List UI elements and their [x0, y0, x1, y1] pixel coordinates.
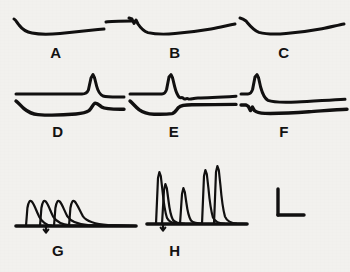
panel-c: [240, 12, 348, 42]
panel-label-b: B: [163, 44, 187, 61]
panel-label-f: F: [272, 123, 296, 140]
panel-b: [129, 12, 239, 42]
panel-f-traces: [241, 72, 349, 120]
panel-label-d: D: [46, 123, 70, 140]
panel-label-e: E: [162, 123, 186, 140]
trace-lower-slow-wave-d: [16, 101, 124, 115]
panel-g-traces: [16, 180, 138, 236]
panel-h-traces: [147, 156, 253, 236]
stimulus-arrow-icon-g: [44, 227, 49, 233]
trace-upper-mid-spike-e: [130, 75, 236, 100]
panel-label-h: H: [163, 242, 187, 259]
trace-slow-potential-c: [240, 18, 344, 34]
panel-e-traces: [130, 72, 240, 120]
trace-upper-late-spike-d: [16, 75, 124, 97]
trace-slow-potential-a: [14, 19, 104, 34]
panel-a: [14, 12, 134, 42]
panel-label-c: C: [272, 44, 296, 61]
trace-transient-4-g: [69, 201, 136, 226]
stimulus-arrow-icon-h: [161, 225, 166, 231]
trace-lower-notch-wave-f: [241, 105, 347, 113]
trace-spike-5-h: [214, 166, 247, 224]
panel-f: [241, 72, 349, 120]
panel-label-g: G: [46, 242, 70, 259]
panel-g: [16, 180, 138, 236]
panel-e: [130, 72, 240, 120]
trace-lower-slow-wave-e: [130, 101, 236, 114]
trace-upper-early-spike-f: [241, 75, 345, 103]
calibration-bar-shape: [275, 188, 315, 224]
figure-panel-grid: A B C D E F: [0, 0, 350, 272]
panel-label-a: A: [44, 44, 68, 61]
trace-slow-potential-b: [129, 18, 235, 34]
panel-c-traces: [240, 12, 348, 42]
panel-a-traces: [14, 12, 134, 42]
calibration-bar: [275, 188, 315, 224]
panel-d: [16, 72, 128, 120]
panel-b-traces: [129, 12, 239, 42]
panel-d-traces: [16, 72, 128, 120]
panel-h: [147, 156, 253, 236]
